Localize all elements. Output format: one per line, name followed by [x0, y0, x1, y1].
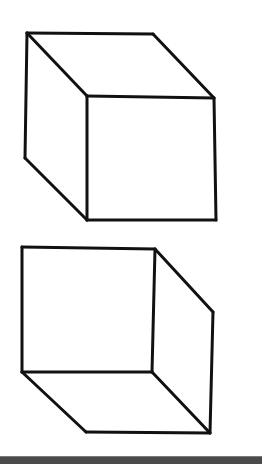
bottom-cube-edge	[210, 312, 213, 433]
bottom-cube	[22, 247, 213, 433]
bottom-cube-edge	[86, 432, 210, 433]
top-cube-edge	[25, 158, 87, 220]
cube-illustration	[0, 0, 262, 456]
top-cube-edge	[25, 33, 27, 158]
bottom-cube-edge	[152, 249, 155, 372]
drawing-canvas	[0, 0, 262, 456]
bottom-cube-edge	[22, 372, 86, 432]
bottom-cube-edge	[152, 372, 210, 433]
top-cube-edge	[27, 33, 87, 96]
bottom-bar	[0, 456, 262, 464]
top-cube-edge	[153, 34, 214, 98]
bottom-cube-edge	[155, 249, 213, 312]
bottom-cube-edge	[22, 247, 155, 249]
top-cube-edge	[27, 33, 153, 34]
top-cube	[25, 33, 216, 220]
top-cube-edge	[87, 96, 214, 98]
top-cube-edge	[214, 98, 216, 220]
